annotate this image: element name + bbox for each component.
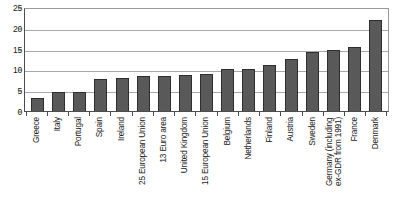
bar	[221, 69, 234, 111]
bar	[31, 98, 44, 111]
x-tick-slot	[175, 112, 196, 116]
bar-slot	[27, 9, 48, 111]
x-tick-slot	[26, 112, 47, 116]
x-tick-mark	[217, 112, 218, 116]
x-axis-label: Sweden	[308, 117, 317, 146]
bar	[285, 59, 298, 111]
x-label-slot: Greece	[26, 117, 47, 212]
bar	[158, 76, 171, 111]
y-tick-mark	[18, 91, 22, 92]
x-tick-slot	[345, 112, 366, 116]
x-tick-slot	[90, 112, 111, 116]
x-tick-mark	[323, 112, 324, 116]
bar-slot	[302, 9, 323, 111]
x-axis-label: Netherlands	[244, 117, 253, 160]
x-label-slot: Ireland	[111, 117, 132, 212]
x-tick-mark	[238, 112, 239, 116]
x-tick-slot	[238, 112, 259, 116]
bar	[52, 92, 65, 111]
x-axis-ticks	[24, 112, 389, 116]
x-tick-mark	[386, 112, 387, 116]
x-axis-label: 25 European Union	[138, 117, 147, 185]
x-tick-mark	[153, 112, 154, 116]
x-axis-label: 15 European Union	[202, 117, 211, 185]
bar	[242, 69, 255, 111]
bar-slot	[217, 9, 238, 111]
x-label-slot: Austria	[281, 117, 302, 212]
x-axis-label: Ireland	[117, 117, 126, 141]
x-axis-label: Finland	[265, 117, 274, 143]
bar-slot	[238, 9, 259, 111]
x-axis-label: 13 Euro area	[159, 117, 168, 163]
x-tick-mark	[132, 112, 133, 116]
x-label-slot: United Kingdom	[175, 117, 196, 212]
x-axis-label: Belgium	[223, 117, 232, 146]
bar	[137, 76, 150, 111]
y-tick-mark	[18, 28, 22, 29]
x-tick-slot	[111, 112, 132, 116]
x-tick-mark	[344, 112, 345, 116]
x-tick-mark	[365, 112, 366, 116]
x-axis-label: Portugal	[74, 117, 83, 146]
bar-slot	[323, 9, 344, 111]
x-axis-labels: GreeceItalyPortugalSpainIreland25 Europe…	[24, 117, 389, 212]
bar	[369, 20, 382, 111]
x-tick-mark	[280, 112, 281, 116]
x-tick-mark	[110, 112, 111, 116]
bar-slot	[133, 9, 154, 111]
x-tick-slot	[132, 112, 153, 116]
bar	[348, 47, 361, 111]
x-tick-mark	[89, 112, 90, 116]
bar-slot	[365, 9, 386, 111]
x-axis-label: Greece	[32, 117, 41, 143]
x-tick-slot	[302, 112, 323, 116]
x-tick-slot	[260, 112, 281, 116]
x-axis-label: France	[350, 117, 359, 142]
x-tick-slot	[366, 112, 387, 116]
x-label-slot: Germany (including ex-GDR from 1991)	[323, 117, 344, 212]
x-tick-slot	[323, 112, 344, 116]
bar	[116, 78, 129, 111]
y-tick-mark	[18, 49, 22, 50]
x-label-slot: Italy	[47, 117, 68, 212]
x-label-slot: 25 European Union	[132, 117, 153, 212]
y-tick-mark	[18, 70, 22, 71]
x-axis-label: Germany (including ex-GDR from 1991)	[324, 117, 343, 186]
x-axis-label: Spain	[96, 117, 105, 137]
x-tick-slot	[47, 112, 68, 116]
x-tick-slot	[153, 112, 174, 116]
x-label-slot: Sweden	[302, 117, 323, 212]
x-tick-mark	[174, 112, 175, 116]
x-label-slot: France	[345, 117, 366, 212]
x-tick-slot	[68, 112, 89, 116]
x-tick-mark	[259, 112, 260, 116]
y-tick-mark	[18, 8, 22, 9]
x-tick-mark	[195, 112, 196, 116]
bar	[200, 74, 213, 111]
x-label-slot: Denmark	[366, 117, 387, 212]
x-label-slot: Finland	[260, 117, 281, 212]
x-label-slot: Spain	[90, 117, 111, 212]
bar-slot	[259, 9, 280, 111]
x-label-slot: 13 Euro area	[153, 117, 174, 212]
bar	[73, 92, 86, 111]
x-label-slot: Portugal	[68, 117, 89, 212]
x-tick-mark	[26, 112, 27, 116]
x-label-slot: Netherlands	[238, 117, 259, 212]
x-tick-mark	[302, 112, 303, 116]
x-label-slot: Belgium	[217, 117, 238, 212]
bar-slot	[69, 9, 90, 111]
x-axis-label: United Kingdom	[181, 117, 190, 173]
bar-slot	[154, 9, 175, 111]
bar-slot	[344, 9, 365, 111]
x-tick-slot	[281, 112, 302, 116]
x-axis-label: Denmark	[372, 117, 381, 149]
bars-layer	[25, 9, 388, 111]
bar	[327, 50, 340, 111]
bar-slot	[48, 9, 69, 111]
bar-slot	[90, 9, 111, 111]
y-axis: 0510152025	[0, 8, 22, 112]
bar	[94, 79, 107, 111]
bar	[263, 65, 276, 111]
x-axis-label: Italy	[53, 117, 62, 131]
